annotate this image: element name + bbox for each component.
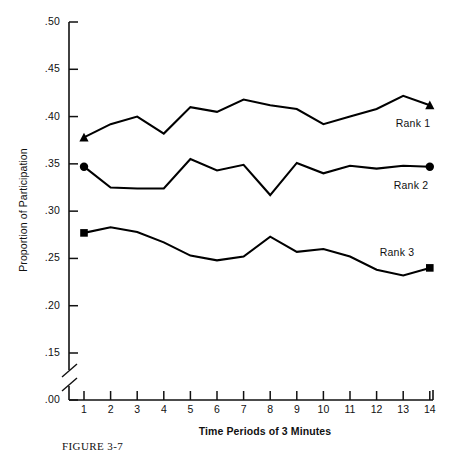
x-tick-label: 14	[420, 403, 440, 415]
axes	[62, 22, 433, 400]
y-tick-label: .40	[30, 110, 60, 122]
series-label-rank-2: Rank 2	[394, 179, 428, 191]
y-tick-label: .50	[30, 15, 60, 27]
x-axis-ticks	[84, 391, 430, 400]
x-axis-title: Time Periods of 3 Minutes	[115, 425, 415, 437]
y-tick-label: .35	[30, 157, 60, 169]
x-tick-label: 5	[180, 403, 200, 415]
series-marker-square	[80, 229, 88, 237]
x-tick-label: 2	[101, 403, 121, 415]
series-label-rank-1: Rank 1	[396, 117, 430, 129]
x-tick-label: 4	[154, 403, 174, 415]
x-tick-label: 8	[260, 403, 280, 415]
series-line-rank-2	[84, 159, 430, 195]
x-tick-label: 13	[393, 403, 413, 415]
x-tick-label: 12	[367, 403, 387, 415]
series-marker-triangle	[79, 133, 88, 142]
series-line-rank-3	[84, 227, 430, 275]
y-tick-label: .25	[30, 251, 60, 263]
x-tick-label: 7	[234, 403, 254, 415]
x-tick-label: 9	[287, 403, 307, 415]
y-tick-label: .45	[30, 62, 60, 74]
y-tick-label: .20	[30, 299, 60, 311]
series-line-rank-1	[84, 96, 430, 138]
series-label-rank-3: Rank 3	[380, 246, 414, 258]
series-marker-circle	[426, 162, 434, 170]
figure-caption: FIGURE 3-7	[62, 440, 123, 452]
figure-3-7: Proportion of Participation .50.45.40.35…	[0, 0, 463, 460]
y-tick-label: .15	[30, 346, 60, 358]
chart-plot-area	[0, 0, 463, 460]
x-tick-label: 1	[74, 403, 94, 415]
x-tick-label: 6	[207, 403, 227, 415]
series-marker-circle	[80, 162, 88, 170]
y-tick-label: .30	[30, 204, 60, 216]
x-tick-label: 11	[340, 403, 360, 415]
y-axis-title: Proportion of Participation	[17, 110, 29, 310]
x-tick-label: 10	[313, 403, 333, 415]
series-marker-square	[426, 264, 434, 272]
y-axis-ticks	[69, 22, 78, 400]
x-tick-label: 3	[127, 403, 147, 415]
y-tick-label: .00	[30, 393, 60, 405]
